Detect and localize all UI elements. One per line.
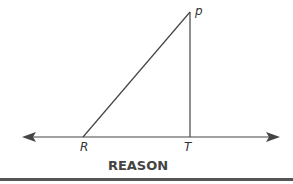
point-label-t: T — [184, 140, 191, 154]
point-label-r: R — [80, 140, 88, 154]
divider-rule — [0, 178, 293, 181]
triangle-diagram — [0, 0, 293, 184]
reason-heading: REASON — [0, 158, 276, 173]
segment-rp — [83, 12, 190, 137]
point-label-p: p — [195, 4, 203, 18]
